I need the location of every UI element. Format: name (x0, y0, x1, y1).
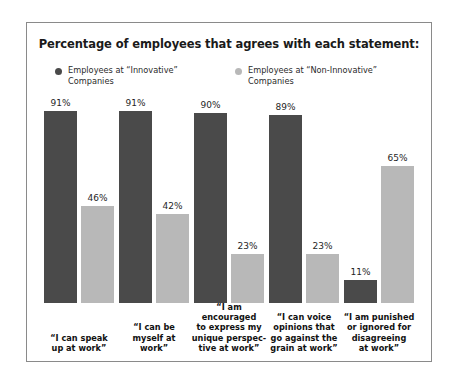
bar-value-label: 89% (263, 102, 309, 112)
bar (306, 254, 339, 303)
bar-group: 91%42%“I can bemyself atwork” (119, 23, 189, 361)
bar-value-label: 65% (375, 153, 421, 163)
chart-frame: Percentage of employees that agrees with… (26, 22, 432, 362)
bar (194, 113, 227, 303)
bar-value-label: 46% (75, 193, 121, 203)
bar (44, 111, 77, 303)
bar-value-label: 90% (188, 100, 234, 110)
bar-value-label: 91% (38, 98, 84, 108)
bar (231, 254, 264, 303)
bar-value-label: 91% (113, 98, 159, 108)
bar-value-label: 23% (300, 241, 346, 251)
bar-group: 89%23%“I can voiceopinions thatgo agains… (269, 23, 339, 361)
bar (119, 111, 152, 303)
category-axis-label: “I can speakup at work” (39, 333, 119, 353)
bar-group: 11%65%“I am punishedor ignored fordisagr… (344, 23, 414, 361)
category-axis-label: “I am punishedor ignored fordisagreeinga… (339, 312, 419, 353)
category-axis-label: “I am encouragedto express myunique pers… (189, 302, 269, 353)
bar (156, 214, 189, 303)
bar (344, 280, 377, 303)
bar-value-label: 42% (150, 201, 196, 211)
bar (269, 115, 302, 303)
category-axis-label: “I can voiceopinions thatgo against theg… (264, 312, 344, 353)
category-axis-label: “I can bemyself atwork” (114, 322, 194, 353)
bar-chart-plot-area: 91%46%“I can speakup at work”91%42%“I ca… (27, 23, 431, 361)
bar-group: 91%46%“I can speakup at work” (44, 23, 114, 361)
bar-value-label: 11% (338, 267, 384, 277)
bar-value-label: 23% (225, 241, 271, 251)
bar (381, 166, 414, 303)
bar (81, 206, 114, 303)
bar-group: 90%23%“I am encouragedto express myuniqu… (194, 23, 264, 361)
